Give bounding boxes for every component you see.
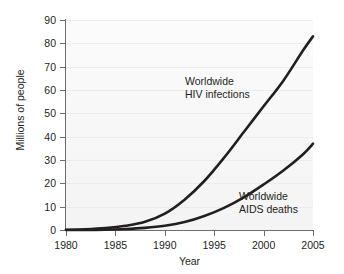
x-axis-tick: [313, 231, 314, 236]
y-axis-tick-label: 10: [28, 202, 56, 213]
x-axis-tick: [66, 231, 67, 236]
y-axis-tick: [60, 43, 65, 44]
gridline: [66, 160, 313, 161]
y-axis-tick-label: 0: [28, 225, 56, 236]
aids-annotation-line-2: AIDS deaths: [239, 203, 298, 216]
y-axis-title: Millions of people: [14, 50, 26, 170]
x-axis-tick: [115, 231, 116, 236]
gridline: [66, 113, 313, 114]
hiv-annotation-line-1: Worldwide: [185, 75, 250, 88]
y-axis-tick: [60, 113, 65, 114]
y-axis-tick-label: 60: [28, 85, 56, 96]
y-axis-tick-label: 80: [28, 38, 56, 49]
x-axis-tick: [165, 231, 166, 236]
gridline: [66, 183, 313, 184]
x-axis-tick-label: 1985: [93, 240, 137, 251]
aids-deaths-annotation: Worldwide AIDS deaths: [239, 190, 298, 215]
x-axis-tick-label: 1995: [192, 240, 236, 251]
x-axis-title: Year: [66, 255, 313, 267]
y-axis-tick-label: 40: [28, 132, 56, 143]
hiv-infections-annotation: Worldwide HIV infections: [185, 75, 250, 100]
gridline: [66, 43, 313, 44]
y-axis-tick: [60, 230, 65, 231]
x-axis-line: [65, 230, 314, 231]
x-axis-tick-label: 1980: [44, 240, 88, 251]
y-axis-tick: [60, 20, 65, 21]
y-axis-tick-label: 20: [28, 178, 56, 189]
y-axis-tick: [60, 90, 65, 91]
y-axis-line: [65, 19, 66, 231]
x-axis-tick-label: 1990: [143, 240, 187, 251]
gridline: [66, 20, 313, 21]
y-axis-tick-label: 50: [28, 108, 56, 119]
gridline: [66, 137, 313, 138]
y-axis-tick: [60, 160, 65, 161]
gridline: [66, 67, 313, 68]
y-axis-tick-label: 90: [28, 15, 56, 26]
y-axis-tick-label: 70: [28, 62, 56, 73]
aids-annotation-line-1: Worldwide: [239, 190, 298, 203]
y-axis-tick: [60, 67, 65, 68]
chart-figure: 9080706050403020100 19801985199019952000…: [0, 0, 344, 274]
hiv-annotation-line-2: HIV infections: [185, 88, 250, 101]
y-axis-tick-label: 30: [28, 155, 56, 166]
x-axis-tick-label: 2000: [242, 240, 286, 251]
y-axis-tick: [60, 183, 65, 184]
x-axis-tick-label: 2005: [291, 240, 335, 251]
x-axis-tick: [264, 231, 265, 236]
y-axis-tick: [60, 207, 65, 208]
x-axis-tick: [214, 231, 215, 236]
y-axis-tick: [60, 137, 65, 138]
